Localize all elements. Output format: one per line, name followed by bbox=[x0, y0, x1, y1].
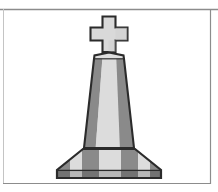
monument-base bbox=[52, 146, 172, 182]
cross-icon bbox=[91, 17, 128, 53]
image-canvas: Grayscale clip-art of a tall tapered mem… bbox=[0, 0, 218, 192]
monument-column bbox=[80, 50, 140, 150]
monument-illustration bbox=[0, 0, 218, 192]
cross-stem-shade bbox=[109, 41, 116, 52]
cross-right-arm-shade bbox=[116, 28, 128, 40]
